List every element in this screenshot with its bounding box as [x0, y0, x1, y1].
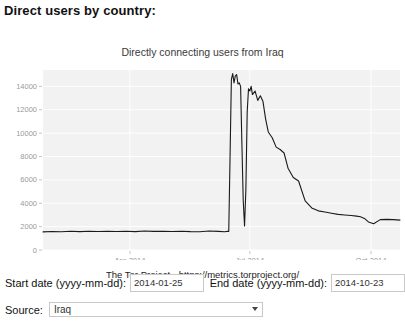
svg-text:Apr-2014: Apr-2014 [115, 256, 146, 260]
svg-text:8000: 8000 [20, 152, 37, 161]
y-axis-ticks: 02000400060008000100001200014000 [16, 82, 42, 255]
users-line-chart: 02000400060008000100001200014000 Apr-201… [0, 18, 405, 260]
svg-text:Oct-2014: Oct-2014 [356, 256, 387, 260]
svg-text:6000: 6000 [20, 175, 37, 184]
svg-text:2000: 2000 [20, 222, 37, 231]
page-title: Direct users by country: [4, 3, 405, 18]
svg-text:14000: 14000 [16, 82, 37, 91]
graph-container: Directly connecting users from Iraq 0200… [0, 18, 405, 260]
svg-text:0: 0 [33, 246, 37, 255]
end-date-input[interactable] [331, 274, 405, 292]
source-selected-value: Iraq [54, 304, 71, 315]
chevron-down-icon [252, 307, 258, 311]
plot-background [43, 70, 400, 250]
svg-text:12000: 12000 [16, 105, 37, 114]
query-form: Start date (yyyy-mm-dd): End date (yyyy-… [0, 272, 405, 320]
svg-text:Jul-2014: Jul-2014 [235, 256, 264, 260]
start-date-label: Start date (yyyy-mm-dd): [5, 277, 126, 289]
source-label: Source: [5, 304, 43, 316]
end-date-label: End date (yyyy-mm-dd): [210, 277, 327, 289]
svg-text:4000: 4000 [20, 199, 37, 208]
start-date-input[interactable] [130, 274, 204, 292]
source-row: Source: Iraq [5, 299, 405, 320]
svg-text:10000: 10000 [16, 129, 37, 138]
date-range-row: Start date (yyyy-mm-dd): End date (yyyy-… [5, 272, 405, 293]
source-select[interactable]: Iraq [49, 302, 263, 317]
x-axis-ticks: Apr-2014Jul-2014Oct-2014 [115, 251, 387, 260]
